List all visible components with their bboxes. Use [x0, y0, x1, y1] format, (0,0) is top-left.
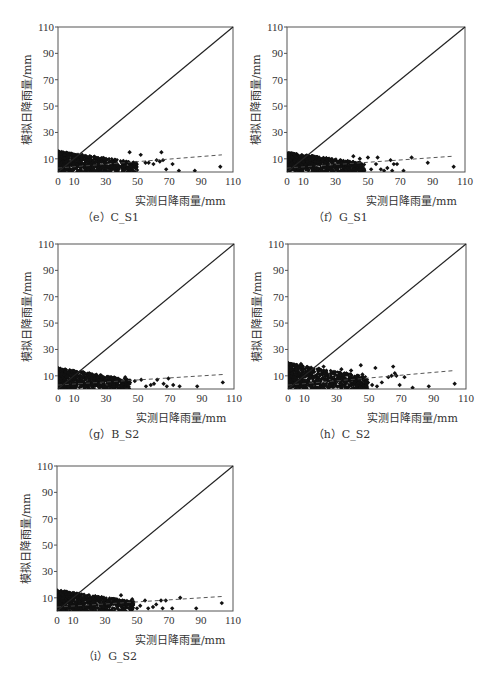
y-tick-label: 70 — [43, 74, 55, 86]
data-point-outlier — [127, 150, 131, 154]
data-point-outlier — [144, 384, 148, 388]
data-point-outlier — [133, 379, 137, 383]
data-point-outlier — [143, 598, 147, 602]
data-point-outlier — [359, 363, 363, 367]
x-tick-label: 90 — [427, 175, 439, 187]
data-point-outlier — [366, 155, 370, 159]
scatter-panel-f: 103050709011001030507090110模拟日降雨量/mm实测日降… — [249, 21, 474, 224]
x-tick-label: 0 — [55, 175, 61, 187]
data-point-outlier — [218, 165, 222, 169]
data-point-outlier — [375, 384, 379, 388]
data-point-outlier — [369, 167, 373, 171]
data-point-outlier — [339, 367, 343, 371]
x-axis-label: 实测日降雨量/mm — [135, 633, 226, 647]
x-tick-label: 30 — [331, 392, 343, 404]
x-tick-label: 10 — [68, 614, 80, 626]
x-tick-label: 0 — [284, 175, 290, 187]
reference-line-1to1 — [58, 244, 234, 389]
reference-line-1to1 — [287, 27, 465, 172]
y-axis-label: 模拟日降雨量/mm — [20, 271, 34, 362]
data-point-outlier — [170, 606, 174, 610]
data-point-outlier — [159, 150, 163, 154]
x-tick-label: 0 — [55, 392, 61, 404]
y-tick-label: 90 — [43, 264, 55, 276]
data-point-outlier — [171, 383, 175, 387]
data-point-outlier — [380, 380, 384, 384]
y-axis-label: 模拟日降雨量/mm — [19, 493, 33, 584]
data-point-outlier — [154, 602, 158, 606]
data-point-outlier — [426, 161, 430, 165]
data-point-outlier — [151, 162, 155, 166]
data-point-outlier — [195, 384, 199, 388]
data-point-outlier — [161, 382, 165, 386]
x-tick-label: 10 — [69, 392, 81, 404]
data-point-outlier — [160, 606, 164, 610]
y-tick-label: 110 — [267, 21, 284, 33]
x-tick-label: 110 — [458, 392, 475, 404]
plot-area — [286, 361, 457, 391]
x-tick-label: 50 — [362, 175, 374, 187]
reference-line-1to1 — [288, 244, 466, 389]
x-axis-label: 实测日降雨量/mm — [367, 411, 458, 425]
x-tick-label: 10 — [68, 175, 80, 187]
x-tick-label: 70 — [164, 614, 176, 626]
data-point-outlier — [452, 382, 456, 386]
data-point-outlier — [321, 364, 325, 368]
x-tick-label: 10 — [298, 175, 310, 187]
y-tick-label: 10 — [43, 370, 55, 382]
data-point-outlier — [375, 155, 379, 159]
y-axis-label: 模拟日降雨量/mm — [250, 271, 264, 362]
data-point-outlier — [170, 162, 174, 166]
x-tick-label: 30 — [100, 614, 112, 626]
x-tick-label: 0 — [54, 614, 60, 626]
x-tick-label: 90 — [428, 392, 440, 404]
data-point-outlier — [395, 162, 399, 166]
x-tick-label: 70 — [165, 392, 177, 404]
data-point-outlier — [146, 161, 150, 165]
data-point-outlier — [358, 157, 362, 161]
data-point-outlier — [194, 606, 198, 610]
x-tick-label: 110 — [225, 614, 242, 626]
data-point-outlier — [451, 165, 455, 169]
x-tick-label: 50 — [132, 614, 144, 626]
x-tick-label: 70 — [396, 392, 408, 404]
data-point-outlier — [391, 364, 395, 368]
x-tick-label: 30 — [101, 392, 113, 404]
y-tick-label: 30 — [43, 343, 55, 355]
y-tick-label: 90 — [43, 47, 55, 59]
y-tick-label: 30 — [272, 126, 284, 138]
y-tick-label: 70 — [43, 291, 55, 303]
x-axis-label: 实测日降雨量/mm — [136, 411, 227, 425]
data-point-outlier — [119, 593, 123, 597]
data-point-outlier — [402, 375, 406, 379]
x-tick-label: 10 — [299, 392, 311, 404]
scatter-panel-e: 103050709011001030507090110模拟日降雨量/mm实测日降… — [20, 21, 242, 224]
data-point-outlier — [374, 162, 378, 166]
y-tick-label: 30 — [273, 343, 285, 355]
panel-caption: （i）G_S2 — [83, 650, 137, 663]
y-tick-label: 90 — [273, 264, 285, 276]
y-tick-label: 50 — [43, 100, 55, 112]
figure-canvas: 103050709011001030507090110模拟日降雨量/mm实测日降… — [0, 0, 491, 677]
y-tick-label: 110 — [38, 21, 55, 33]
data-point-outlier — [177, 384, 181, 388]
plot-area — [285, 151, 456, 174]
data-point-outlier — [397, 383, 401, 387]
y-axis-label: 模拟日降雨量/mm — [20, 54, 34, 145]
y-tick-label: 50 — [273, 317, 285, 329]
data-point-outlier — [164, 167, 168, 171]
reference-line-1to1 — [58, 27, 233, 172]
x-tick-label: 90 — [196, 175, 208, 187]
y-tick-label: 50 — [43, 317, 55, 329]
y-tick-label: 110 — [268, 238, 285, 250]
data-point-outlier — [221, 380, 225, 384]
data-point-outlier — [220, 601, 224, 605]
panel-caption: （g）B_S2 — [82, 428, 139, 441]
x-tick-label: 70 — [164, 175, 176, 187]
x-tick-label: 50 — [133, 392, 145, 404]
y-tick-label: 110 — [38, 238, 55, 250]
x-tick-label: 30 — [330, 175, 342, 187]
x-tick-label: 70 — [395, 175, 407, 187]
y-tick-label: 10 — [43, 153, 55, 165]
panel-caption: （e）C_S1 — [82, 211, 139, 224]
